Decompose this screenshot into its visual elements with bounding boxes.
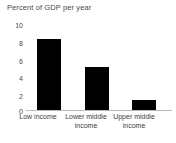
x-axis-label-low-income-line1: Low income xyxy=(19,113,56,120)
y-axis-tick-2: 2 xyxy=(5,93,23,100)
x-axis-label-upper-middle-income-line1: Upper middle xyxy=(113,113,155,120)
y-axis-tick-4: 4 xyxy=(5,75,23,82)
y-axis: 10 8 6 4 2 0 xyxy=(0,22,23,111)
chart-title: Percent of GDP per year xyxy=(7,3,91,12)
bar-low-income xyxy=(37,39,61,111)
bar-lower-middle-income xyxy=(85,67,109,112)
y-axis-tick-10: 10 xyxy=(5,22,23,29)
x-axis-label-upper-middle-income-line2: income xyxy=(123,122,146,129)
x-axis-label-lower-middle-income-line2: income xyxy=(75,122,98,129)
x-axis-label-lower-middle-income-line1: Lower middle xyxy=(65,113,107,120)
chart-figure: Percent of GDP per year 10 8 6 4 2 0 Low… xyxy=(0,0,176,143)
y-axis-tick-6: 6 xyxy=(5,58,23,65)
x-axis-line xyxy=(26,110,172,111)
x-axis-label-upper-middle-income: Upper middle income xyxy=(105,113,163,130)
plot-area xyxy=(26,22,171,111)
y-axis-tick-8: 8 xyxy=(5,40,23,47)
